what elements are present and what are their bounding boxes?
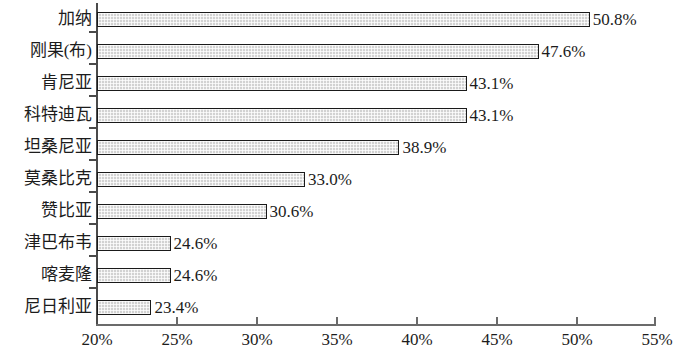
bar-value-label: 24.6% [174,266,218,286]
y-axis-tick [89,255,97,257]
bar-wrapper: 38.9% [97,140,399,155]
bar: 38.9% [97,140,399,155]
bar-value-label: 24.6% [174,234,218,254]
bar-wrapper: 43.1% [97,76,467,91]
category-label: 刚果(布) [0,35,92,67]
y-axis-tick [89,31,97,33]
bar-value-label: 38.9% [402,138,446,158]
bar-wrapper: 24.6% [97,268,171,283]
category-label: 赞比亚 [0,195,92,227]
category-label: 津巴布韦 [0,227,92,259]
x-axis-tick-label: 55% [622,330,674,350]
y-axis-tick [89,127,97,129]
x-axis-tick [336,317,338,325]
bar: 24.6% [97,268,171,283]
bar-row: 加纳50.8% [0,3,674,35]
y-axis-tick [89,63,97,65]
category-label: 莫桑比克 [0,163,92,195]
bar-row: 喀麦隆24.6% [0,259,674,291]
bar-wrapper: 43.1% [97,108,467,123]
bar: 50.8% [97,12,590,27]
x-axis-tick-label: 45% [462,330,532,350]
bar-value-label: 33.0% [308,170,352,190]
bar-row: 科特迪瓦43.1% [0,99,674,131]
x-axis-line [96,324,656,326]
bar-value-label: 43.1% [470,106,514,126]
bar-wrapper: 50.8% [97,12,590,27]
x-axis-tick-label: 30% [222,330,292,350]
category-label: 肯尼亚 [0,67,92,99]
bar-row: 莫桑比克33.0% [0,163,674,195]
category-label: 喀麦隆 [0,259,92,291]
y-axis-tick [89,191,97,193]
x-axis-tick [256,317,258,325]
x-axis-tick-label: 40% [382,330,452,350]
y-axis-tick [89,223,97,225]
bar: 30.6% [97,204,267,219]
bar-row: 刚果(布)47.6% [0,35,674,67]
x-axis-tick [416,317,418,325]
x-axis-tick-label: 20% [62,330,132,350]
y-axis-tick [89,159,97,161]
bar-row: 赞比亚30.6% [0,195,674,227]
bar: 33.0% [97,172,305,187]
bar-wrapper: 23.4% [97,300,151,315]
bar-wrapper: 33.0% [97,172,305,187]
category-label: 科特迪瓦 [0,99,92,131]
bar-wrapper: 24.6% [97,236,171,251]
x-axis-tick [576,317,578,325]
x-axis-tick [496,317,498,325]
bar: 47.6% [97,44,539,59]
bar-value-label: 50.8% [593,10,637,30]
x-axis-tick-label: 50% [542,330,612,350]
y-axis-tick [89,95,97,97]
x-axis-tick [176,317,178,325]
category-label: 尼日利亚 [0,291,92,323]
bar-value-label: 30.6% [270,202,314,222]
x-axis-tick-label: 25% [142,330,212,350]
category-label: 坦桑尼亚 [0,131,92,163]
bar-value-label: 47.6% [542,42,586,62]
category-label: 加纳 [0,3,92,35]
bar: 43.1% [97,108,467,123]
bar-wrapper: 30.6% [97,204,267,219]
bar-wrapper: 47.6% [97,44,539,59]
bar-row: 肯尼亚43.1% [0,67,674,99]
bar: 24.6% [97,236,171,251]
bar-row: 坦桑尼亚38.9% [0,131,674,163]
bar: 23.4% [97,300,151,315]
bar: 43.1% [97,76,467,91]
bar-value-label: 43.1% [470,74,514,94]
bar-row: 津巴布韦24.6% [0,227,674,259]
x-axis-tick-label: 35% [302,330,372,350]
bar-value-label: 23.4% [154,298,198,318]
y-axis-tick [89,287,97,289]
bar-chart: 加纳50.8%刚果(布)47.6%肯尼亚43.1%科特迪瓦43.1%坦桑尼亚38… [0,0,674,355]
